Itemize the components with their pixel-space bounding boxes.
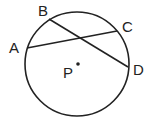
chord-bd — [49, 19, 128, 67]
label-a: A — [9, 39, 19, 56]
label-p: P — [63, 64, 73, 81]
label-b: B — [38, 2, 48, 19]
diagram-canvas: A B C D P — [0, 0, 152, 122]
label-c: C — [122, 18, 133, 35]
label-d: D — [133, 61, 144, 78]
center-point — [76, 62, 80, 66]
